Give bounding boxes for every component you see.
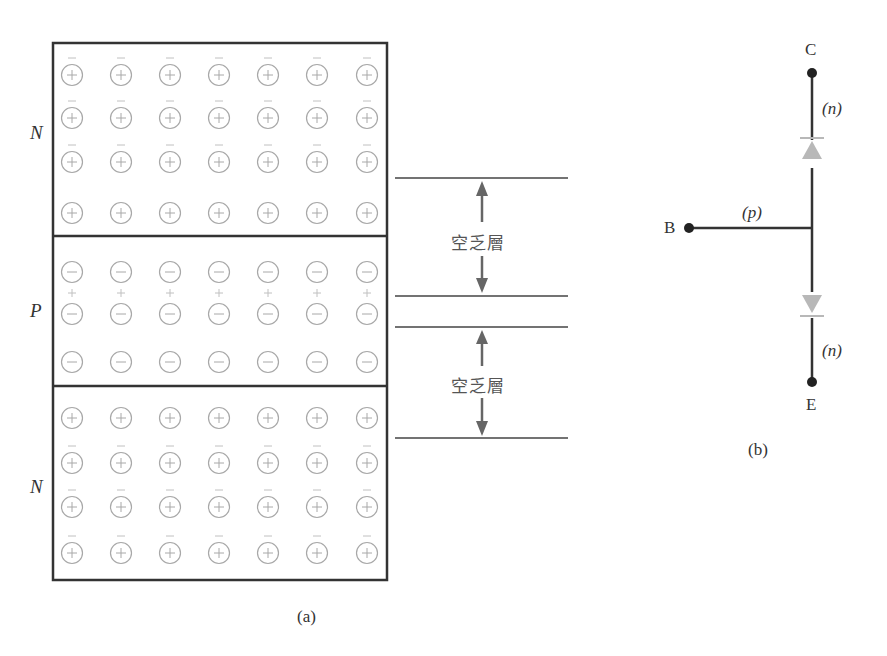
collector-terminal-dot (807, 68, 817, 78)
collector-label: C (805, 40, 816, 60)
region-label-n-bottom: N (30, 476, 43, 498)
base-label: B (664, 218, 675, 238)
emitter-terminal-dot (807, 377, 817, 387)
emitter-label: E (806, 395, 816, 415)
caption-a: (a) (297, 607, 316, 627)
block-outline (53, 43, 387, 580)
ion-grid (62, 58, 378, 564)
region-label-n-top: N (30, 122, 43, 144)
collector-region-label: (n) (822, 99, 842, 119)
depletion-layer-label-2: 空乏層 (451, 372, 505, 397)
depletion-arrows (476, 181, 488, 436)
depletion-layer-label-1: 空乏層 (451, 229, 505, 254)
transistor-diode-model (684, 68, 824, 387)
emitter-region-label: (n) (822, 341, 842, 361)
caption-b: (b) (748, 440, 768, 460)
base-terminal-dot (684, 223, 694, 233)
semiconductor-block (53, 43, 387, 580)
region-label-p: P (30, 300, 42, 322)
diagram-canvas (0, 0, 887, 656)
base-region-label: (p) (742, 203, 762, 223)
